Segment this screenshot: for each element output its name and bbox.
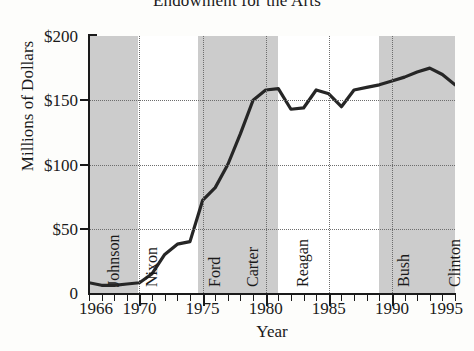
x-minor-tick	[177, 295, 178, 301]
x-minor-tick	[367, 295, 368, 301]
y-tick-mark	[80, 228, 90, 230]
x-minor-tick	[354, 295, 355, 301]
x-minor-tick	[417, 295, 418, 301]
president-label-reagan: Reagan	[294, 239, 312, 287]
x-minor-tick	[114, 295, 115, 301]
x-tick-label: 1966	[79, 299, 113, 319]
x-tick-label: 1995	[429, 299, 463, 319]
y-axis-top-cap	[88, 34, 97, 36]
x-tick-label: 1970	[122, 299, 156, 319]
y-tick-label: 0	[14, 285, 78, 302]
x-axis-line	[88, 293, 456, 295]
president-label-clinton: Clinton	[446, 239, 464, 287]
y-tick-mark	[80, 164, 90, 166]
horizontal-gridline	[89, 165, 455, 166]
president-label-ford: Ford	[206, 257, 224, 287]
x-tick-label: 1985	[312, 299, 346, 319]
x-tick-label: 1990	[375, 299, 409, 319]
y-tick-label: $100	[14, 157, 78, 174]
x-minor-tick	[240, 295, 241, 301]
x-tick-label: 1975	[186, 299, 220, 319]
y-axis-ticks: $200$150$100$500	[0, 0, 78, 351]
president-label-nixon: Nixon	[143, 247, 161, 287]
president-label-carter: Carter	[244, 247, 262, 287]
x-minor-tick	[291, 295, 292, 301]
horizontal-gridline	[89, 100, 455, 101]
x-minor-tick	[304, 295, 305, 301]
y-tick-label: $50	[14, 221, 78, 238]
y-tick-mark	[80, 99, 90, 101]
x-tick-label: 1980	[249, 299, 283, 319]
president-label-johnson: Johnson	[105, 235, 123, 287]
chart-figure: Endowment for the Arts Millions of Dolla…	[0, 0, 474, 351]
y-tick-label: $150	[14, 92, 78, 109]
president-label-bush: Bush	[395, 254, 413, 287]
x-minor-tick	[228, 295, 229, 301]
y-tick-label: $200	[14, 28, 78, 45]
horizontal-gridline	[89, 229, 455, 230]
x-minor-tick	[165, 295, 166, 301]
x-axis-label: Year	[89, 322, 455, 342]
